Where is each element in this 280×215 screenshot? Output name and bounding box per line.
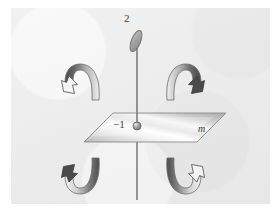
label-top-point: 2 — [124, 13, 130, 24]
arrow-top-left — [62, 64, 100, 100]
arrow-bottom-left-head — [62, 165, 78, 183]
top-ellipse-marker — [128, 29, 145, 53]
arrow-bottom-left — [62, 158, 100, 194]
center-point-dot — [133, 122, 141, 130]
arrow-bottom-right — [167, 158, 205, 194]
diagram-canvas — [0, 0, 280, 215]
label-plane-m: m — [198, 124, 205, 134]
label-center-point: −1 — [113, 119, 125, 130]
arrow-bottom-right-head — [189, 165, 205, 183]
arrow-top-right-head — [189, 76, 205, 94]
arrow-top-right — [167, 64, 205, 100]
arrow-top-left-head — [62, 76, 78, 94]
figure-root: 2 −1 m — [0, 0, 280, 215]
